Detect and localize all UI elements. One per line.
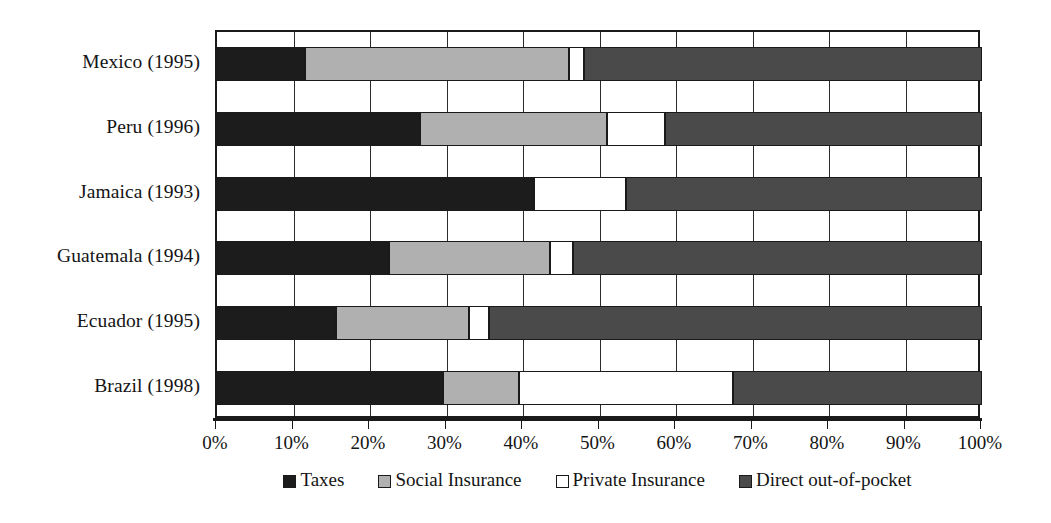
x-axis: [215, 418, 980, 432]
bar-segment: [489, 306, 982, 340]
category-label: Jamaica (1993): [79, 181, 200, 203]
x-axis-tick-label: 20%: [338, 432, 398, 454]
category-label: Guatemala (1994): [57, 245, 200, 267]
x-axis-tick: [674, 418, 675, 429]
legend-swatch-icon: [739, 475, 752, 488]
x-axis-tick: [445, 418, 446, 429]
x-axis-tick: [827, 418, 828, 429]
bar-row: [217, 47, 978, 81]
legend-swatch-icon: [378, 475, 391, 488]
bar-segment: [336, 306, 470, 340]
stacked-bar-chart: Mexico (1995)Peru (1996)Jamaica (1993)Gu…: [0, 0, 1051, 523]
legend-item[interactable]: Private Insurance: [556, 469, 705, 491]
x-axis-tick-label: 10%: [262, 432, 322, 454]
x-axis-tick: [215, 418, 216, 429]
bar-rows: [217, 32, 978, 416]
x-axis-tick-label: 50%: [568, 432, 628, 454]
bar-segment: [420, 112, 607, 146]
x-axis-tick-label: 70%: [721, 432, 781, 454]
bar-segment: [443, 371, 520, 405]
legend-label: Private Insurance: [573, 469, 705, 491]
bar-segment: [469, 306, 488, 340]
bar-segment: [733, 371, 982, 405]
legend-label: Taxes: [300, 469, 344, 491]
bar-segment: [217, 177, 534, 211]
category-label: Ecuador (1995): [77, 310, 200, 332]
bar-segment: [626, 177, 982, 211]
legend-item[interactable]: Taxes: [283, 469, 344, 491]
bar-row: [217, 241, 978, 275]
bar-row: [217, 112, 978, 146]
x-axis-tick-label: 30%: [415, 432, 475, 454]
x-axis-tick-label: 90%: [874, 432, 934, 454]
plot-area: [215, 30, 980, 418]
legend-swatch-icon: [283, 475, 296, 488]
bar-segment: [217, 306, 336, 340]
x-axis-tick: [368, 418, 369, 429]
legend-label: Social Insurance: [395, 469, 521, 491]
legend-item[interactable]: Direct out-of-pocket: [739, 469, 912, 491]
x-axis-tick-label: 80%: [797, 432, 857, 454]
bar-segment: [305, 47, 569, 81]
legend-item[interactable]: Social Insurance: [378, 469, 521, 491]
x-axis-tick: [980, 418, 981, 429]
category-axis-labels: Mexico (1995)Peru (1996)Jamaica (1993)Gu…: [0, 30, 208, 418]
x-axis-tick-label: 60%: [644, 432, 704, 454]
bar-segment: [217, 371, 443, 405]
chart-legend: TaxesSocial InsurancePrivate InsuranceDi…: [215, 466, 980, 494]
bar-row: [217, 177, 978, 211]
bar-segment: [534, 177, 626, 211]
category-label: Brazil (1998): [94, 375, 200, 397]
bar-row: [217, 371, 978, 405]
x-axis-tick: [521, 418, 522, 429]
x-axis-tick-label: 100%: [950, 432, 1010, 454]
bar-segment: [550, 241, 573, 275]
bar-segment: [217, 241, 389, 275]
x-axis-tick: [292, 418, 293, 429]
category-label: Mexico (1995): [82, 51, 200, 73]
bar-segment: [569, 47, 584, 81]
legend-label: Direct out-of-pocket: [756, 469, 912, 491]
bar-segment: [573, 241, 982, 275]
bar-segment: [665, 112, 982, 146]
x-axis-tick-label: 40%: [491, 432, 551, 454]
x-axis-tick: [751, 418, 752, 429]
bar-segment: [389, 241, 550, 275]
bar-segment: [519, 371, 733, 405]
bar-segment: [607, 112, 664, 146]
category-label: Peru (1996): [106, 116, 200, 138]
bar-segment: [584, 47, 982, 81]
bar-segment: [217, 47, 305, 81]
bar-row: [217, 306, 978, 340]
legend-swatch-icon: [556, 475, 569, 488]
x-axis-tick: [904, 418, 905, 429]
x-axis-tick-label: 0%: [185, 432, 245, 454]
bar-segment: [217, 112, 420, 146]
x-axis-tick: [598, 418, 599, 429]
